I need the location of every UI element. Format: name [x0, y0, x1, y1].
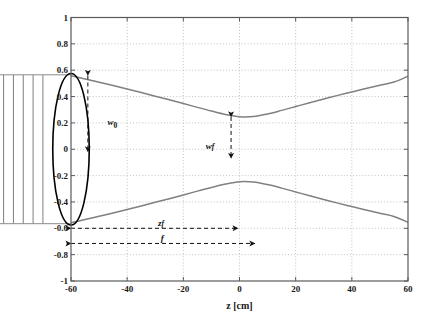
y-tick-label: -0.4	[54, 197, 68, 206]
y-tick-label: -0.2	[54, 171, 68, 180]
x-tick-label: -60	[65, 285, 77, 294]
x-tick-label: 0	[237, 285, 242, 294]
x-tick-label: -20	[177, 285, 189, 294]
y-tick-label: 0.2	[57, 118, 68, 127]
y-tick-label: 0.4	[57, 92, 68, 101]
gaussian-beam-focusing-figure: 10.80.60.40.20-0.2-0.4-0.6-0.8-1 -60-40-…	[0, 0, 425, 322]
annotation-label-f: f	[161, 234, 164, 243]
y-tick-label: 1	[64, 13, 69, 22]
x-axis-title: z [cm]	[226, 300, 252, 311]
annotation-label-w0: w0	[108, 118, 118, 129]
y-tick-label: 0	[64, 145, 69, 154]
y-tick-label: -0.8	[54, 250, 68, 259]
annotation-label-zf: zf	[158, 219, 164, 228]
x-tick-label: 40	[347, 285, 356, 294]
y-tick-label: -0.6	[54, 224, 68, 233]
y-tick-label: 0.6	[57, 66, 68, 75]
y-tick-label: 0.8	[57, 39, 68, 48]
x-tick-label: 20	[291, 285, 300, 294]
annotation-label-wf: wf	[206, 142, 215, 151]
x-tick-label: -40	[121, 285, 133, 294]
x-tick-label: 60	[404, 285, 413, 294]
